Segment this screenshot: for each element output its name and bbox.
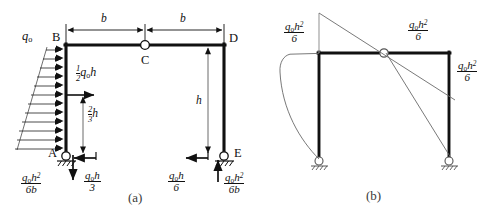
- joint-label-C: C: [141, 53, 149, 68]
- reaction-E-vertical-label: qoh2 6b: [224, 172, 244, 196]
- moment-B-fraction: qoh2 6: [284, 21, 304, 45]
- moment-D-side-fraction: qoh2 6: [457, 60, 477, 84]
- moment-line-B-to-E: [319, 13, 455, 100]
- moment-label-D-top: qoh2 6: [408, 19, 428, 43]
- dimension-label-h: h: [196, 95, 202, 107]
- frame-b-members: [318, 52, 450, 160]
- reaction-A-vertical-label: qoh2 6b: [21, 172, 41, 196]
- reaction-A-horizontal-arrow: [74, 152, 96, 160]
- reaction-E-horizontal-arrow: [186, 152, 208, 160]
- moment-label-B: qoh2 6: [284, 21, 304, 45]
- joint-label-E: E: [234, 146, 242, 161]
- label-q0: qo: [22, 30, 32, 43]
- structural-figure: qo B C D A E b b h 2 3 h 1 2 qoh qoh2 6b…: [0, 0, 503, 218]
- caption-a: (a): [128, 190, 142, 206]
- reaction-A-vertical-fraction: qoh2 6b: [21, 172, 41, 196]
- dimension-label-span-left: b: [101, 13, 107, 25]
- reaction-A-horizontal-fraction: qoh 3: [84, 170, 101, 194]
- moment-line-C-to-base: [386, 53, 451, 158]
- dimension-label-span-right: b: [180, 13, 186, 25]
- joint-label-A: A: [48, 146, 57, 161]
- moment-D-top-fraction: qoh2 6: [408, 19, 428, 43]
- joint-label-D: D: [229, 31, 238, 46]
- moment-curve-left-column: [280, 53, 319, 159]
- panel-b-graphics: [280, 13, 458, 170]
- resultant-force-label: 1 2 qoh: [76, 64, 96, 82]
- reaction-E-vertical-fraction: qoh2 6b: [224, 172, 244, 196]
- support-b-E-pin: [441, 157, 458, 170]
- reaction-E-horizontal-fraction: qoh 6: [168, 170, 185, 194]
- moment-label-D-side: qoh2 6: [457, 60, 477, 84]
- distributed-load-triangle: [15, 46, 64, 152]
- reaction-E-horizontal-label: qoh 6: [168, 170, 185, 194]
- support-b-A-pin: [311, 157, 328, 170]
- caption-b: (b): [366, 188, 381, 204]
- reaction-A-horizontal-label: qoh 3: [84, 170, 101, 194]
- hinge-C: [141, 41, 150, 50]
- joint-label-B: B: [52, 30, 60, 45]
- dimension-label-two-thirds-h: 2 3 h: [88, 105, 98, 123]
